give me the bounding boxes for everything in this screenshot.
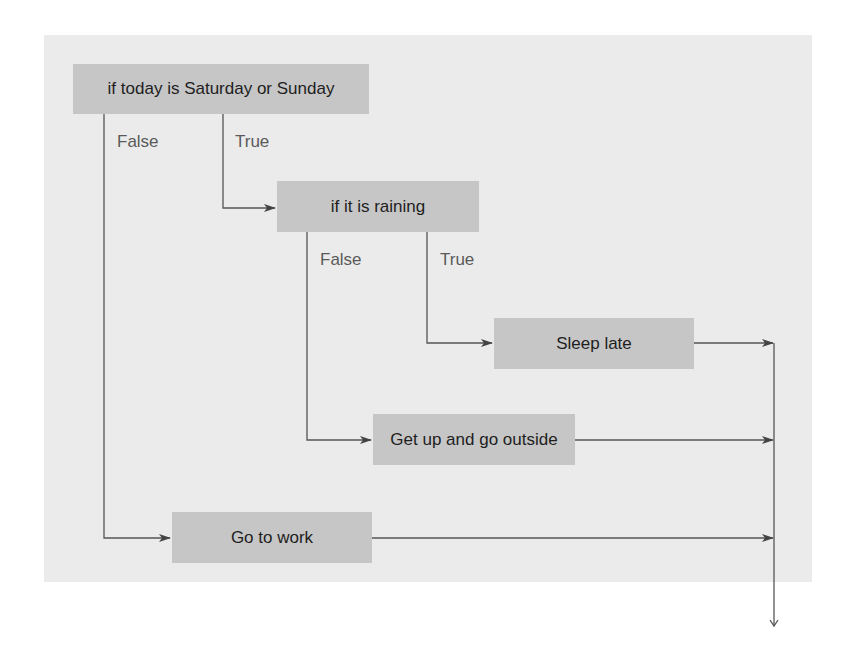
- node-go-outside: Get up and go outside: [373, 414, 575, 465]
- label-weekend-false: False: [117, 132, 159, 152]
- node-weekend-check-text: if today is Saturday or Sunday: [108, 79, 335, 99]
- label-weekend-true: True: [235, 132, 269, 152]
- node-rain-check-text: if it is raining: [331, 197, 425, 217]
- node-rain-check: if it is raining: [277, 181, 479, 232]
- label-rain-false: False: [320, 250, 362, 270]
- edge-rain-true: [427, 232, 492, 343]
- node-go-to-work-text: Go to work: [231, 528, 313, 548]
- edge-weekend-false: [104, 114, 170, 538]
- node-sleep-late-text: Sleep late: [556, 334, 632, 354]
- node-go-outside-text: Get up and go outside: [390, 430, 557, 450]
- node-sleep-late: Sleep late: [494, 318, 694, 369]
- edge-weekend-true: [223, 114, 275, 208]
- label-rain-true: True: [440, 250, 474, 270]
- node-weekend-check: if today is Saturday or Sunday: [73, 64, 369, 114]
- node-go-to-work: Go to work: [172, 512, 372, 563]
